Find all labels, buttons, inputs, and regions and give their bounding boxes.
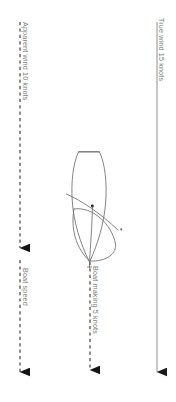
boom-end-marker [120, 229, 122, 231]
boat-sketch [67, 152, 123, 268]
sail-curve [74, 209, 116, 261]
sailing-vector-diagram: True wind 15 knots Apparent wind 10 knot… [0, 0, 176, 402]
mast-line [90, 206, 93, 262]
diagram-canvas [0, 0, 176, 402]
mast-foot-marker [91, 205, 94, 208]
sail-luff [73, 209, 90, 261]
tiller-stub [88, 262, 92, 268]
